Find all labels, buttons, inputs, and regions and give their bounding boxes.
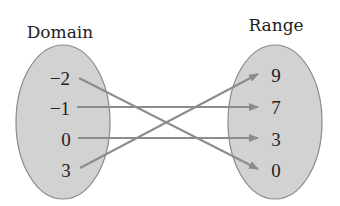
range-value: 0 (271, 160, 281, 181)
domain-title: Domain (27, 22, 94, 42)
domain-value: −2 (50, 68, 70, 89)
range-value: 3 (271, 129, 281, 150)
domain-value: −1 (50, 98, 70, 119)
range-title: Range (248, 15, 303, 35)
domain-value: 3 (61, 160, 71, 181)
domain-value: 0 (61, 129, 71, 150)
range-value: 9 (271, 65, 281, 86)
range-value: 7 (271, 97, 281, 118)
mapping-diagram: Domain Range −2 −1 0 3 9 7 3 0 (0, 0, 340, 206)
